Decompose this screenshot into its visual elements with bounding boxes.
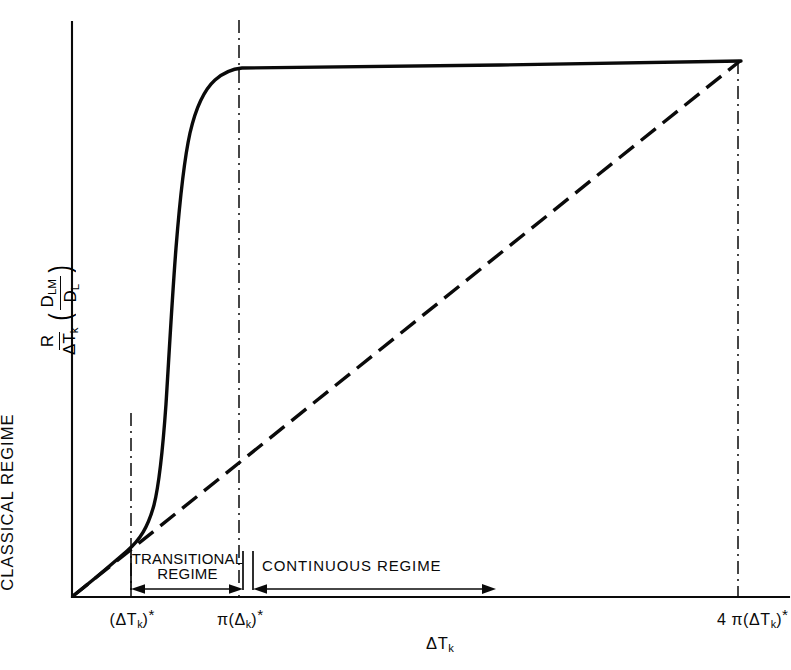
y-axis-label-main-fraction: R ΔTk: [39, 324, 80, 358]
x-tick-label-four-pi-dtk-star: 4 π(ΔTk)*: [648, 606, 788, 630]
x-tick-label-dtk-star: (ΔTk)*: [90, 606, 174, 630]
transitional-regime-label-line1: TRANSITIONAL: [131, 551, 244, 566]
y-axis-close-paren: ): [45, 265, 75, 272]
figure-root: R ΔTk ( DLM DL ) CLASSICAL REGIME TRANSI…: [0, 0, 791, 670]
continuous-regime-arrow: [253, 584, 496, 594]
y-axis-label-ratio-fraction: DLM DL: [39, 276, 81, 310]
continuous-regime-label: CONTINUOUS REGIME: [262, 557, 441, 574]
x-tick-label-pi-dk-star: π(Δk)*: [198, 606, 282, 630]
transitional-regime-label: TRANSITIONAL REGIME: [131, 551, 244, 581]
y-axis-open-paren: (: [45, 314, 75, 321]
y-axis-label: R ΔTk ( DLM DL ): [0, 264, 122, 356]
classical-asymptote-dashed-line: [73, 61, 740, 596]
y-axis-denominator: ΔTk: [60, 324, 81, 358]
transitional-regime-label-line2: REGIME: [131, 566, 244, 581]
x-axis-label: ΔTk: [380, 634, 500, 654]
transitional-regime-arrow: [131, 584, 243, 594]
y-axis-numerator: R: [39, 332, 59, 350]
y-axis-ratio-denominator: DL: [61, 281, 82, 306]
y-axis-ratio-numerator: DLM: [39, 276, 61, 310]
classical-regime-label: CLASSICAL REGIME: [0, 382, 17, 622]
